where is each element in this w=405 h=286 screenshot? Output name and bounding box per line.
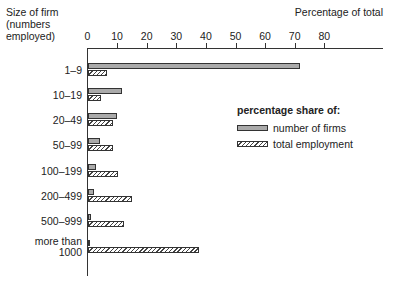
bar-employment <box>88 95 101 101</box>
bar-employment <box>88 196 132 202</box>
bar-employment <box>88 145 113 151</box>
bar-firms <box>88 189 94 195</box>
x-tick-label: 70 <box>289 30 301 42</box>
bar-firms <box>88 138 100 144</box>
x-tick-label: 80 <box>318 30 330 42</box>
legend-item-firms: number of firms <box>237 122 346 134</box>
x-tick-label: 0 <box>85 30 91 42</box>
x-tick-label: 50 <box>230 30 242 42</box>
y-axis-title-line: (numbers <box>6 18 59 30</box>
legend-swatch-employment <box>237 141 268 147</box>
category-label: more than1000 <box>35 236 82 258</box>
x-tick-label: 40 <box>200 30 212 42</box>
x-tick-label: 10 <box>111 30 123 42</box>
category-label: 1–9 <box>64 65 82 76</box>
legend-item-employment: total employment <box>237 138 353 150</box>
bar-firms <box>88 63 300 69</box>
y-axis-title-line: Size of firm <box>6 6 59 18</box>
x-axis-title: Percentage of total <box>295 6 383 18</box>
legend-swatch-firms <box>237 125 268 131</box>
bar-employment <box>88 247 199 253</box>
bar-employment <box>88 70 107 76</box>
x-axis-line <box>87 48 383 49</box>
x-tick-label: 60 <box>259 30 271 42</box>
category-label: 50–99 <box>53 140 82 151</box>
x-tick-label: 30 <box>170 30 182 42</box>
category-label: 200–499 <box>41 191 82 202</box>
legend-label: number of firms <box>273 122 346 134</box>
y-axis-title: Size of firm (numbers employed) <box>6 6 59 42</box>
bar-firms <box>88 113 117 119</box>
bar-employment <box>88 221 124 227</box>
legend-label: total employment <box>273 138 353 150</box>
legend-title: percentage share of: <box>237 104 340 116</box>
category-label: 20–49 <box>53 115 82 126</box>
bar-employment <box>88 171 118 177</box>
bar-firms <box>88 240 90 246</box>
bar-firms <box>88 88 122 94</box>
category-label: 100–199 <box>41 166 82 177</box>
y-axis-title-line: employed) <box>6 30 59 42</box>
category-label: 500–999 <box>41 216 82 227</box>
x-tick-label: 20 <box>141 30 153 42</box>
category-label: 10–19 <box>53 90 82 101</box>
bar-firms <box>88 164 96 170</box>
bar-firms <box>88 214 91 220</box>
bar-employment <box>88 120 113 126</box>
